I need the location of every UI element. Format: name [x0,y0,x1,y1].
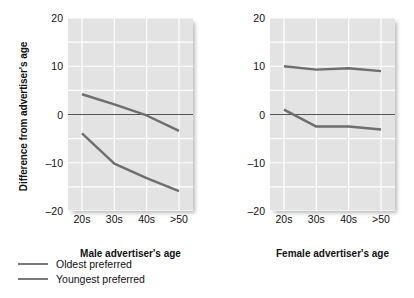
x-axis-ticks-male: 20s30s40s>50 [68,213,193,227]
x-tick-label: 30s [308,213,325,225]
plot-area-male [68,18,193,211]
x-axis-title-female: Female advertiser's age [248,248,414,259]
plot-lines-female [270,18,395,211]
plot-lines-male [68,18,193,211]
panel-female: 20100–10–20 20s30s40s>50 Female advertis… [270,18,395,211]
y-tick-label: 10 [253,60,265,72]
x-tick-label: >50 [372,213,390,225]
legend-line-icon-youngest [18,278,48,280]
chart-legend: Oldest preferred Youngest preferred [18,256,248,286]
y-tick-label: 0 [57,109,63,121]
legend-item-oldest: Oldest preferred [18,256,248,271]
legend-item-youngest: Youngest preferred [18,271,248,286]
chart-figure: Difference from advertiser's age 20100–1… [0,0,414,298]
x-tick-label: 30s [106,213,123,225]
x-tick-label: 20s [276,213,293,225]
y-tick-label: –20 [247,205,265,217]
legend-label-youngest: Youngest preferred [56,273,145,285]
x-tick-label: 20s [74,213,91,225]
y-axis-title: Difference from advertiser's age [18,12,29,222]
panel-male: 20100–10–20 20s30s40s>50 Male advertiser… [68,18,193,211]
x-axis-ticks-female: 20s30s40s>50 [270,213,395,227]
x-tick-label: 40s [340,213,357,225]
y-tick-label: 20 [51,12,63,24]
y-tick-label: –10 [247,157,265,169]
legend-line-icon-oldest [18,263,48,265]
y-tick-label: –10 [45,157,63,169]
legend-label-oldest: Oldest preferred [56,258,132,270]
y-tick-label: –20 [45,205,63,217]
x-tick-label: >50 [170,213,188,225]
y-tick-label: 10 [51,60,63,72]
y-tick-label: 0 [259,109,265,121]
y-tick-label: 20 [253,12,265,24]
x-tick-label: 40s [138,213,155,225]
plot-area-female [270,18,395,211]
